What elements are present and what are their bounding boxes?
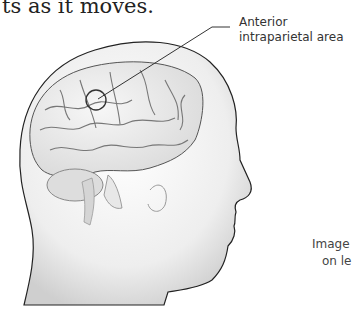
callout-label-anterior-intraparietal-area: Anterior intraparietal area xyxy=(239,15,344,45)
head-brain-illustration xyxy=(0,0,352,320)
callout-label-line2: intraparietal area xyxy=(239,30,344,45)
figure-caption-line2: on le xyxy=(322,253,351,270)
figure-caption-line1: Image xyxy=(312,236,350,253)
callout-label-line1: Anterior xyxy=(239,15,344,30)
cerebellum xyxy=(47,169,103,201)
